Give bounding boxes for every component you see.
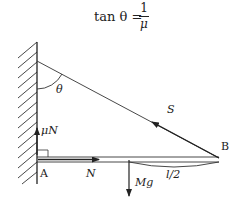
label-l-half: l/2 xyxy=(166,168,180,181)
label-n: N xyxy=(85,167,96,180)
half-length-brace xyxy=(129,162,219,167)
wall-hatching xyxy=(18,42,37,184)
label-s: S xyxy=(167,103,175,116)
label-theta: θ xyxy=(56,83,63,96)
tension-arrow xyxy=(152,122,219,158)
label-a: A xyxy=(39,167,49,180)
label-mu-n: μN xyxy=(41,124,58,137)
right-angle-marker xyxy=(37,150,48,157)
label-mg: Mg xyxy=(134,176,153,189)
ladder-diagram: θ μN A N S Mg l/2 B xyxy=(0,0,246,201)
label-b: B xyxy=(221,140,229,153)
